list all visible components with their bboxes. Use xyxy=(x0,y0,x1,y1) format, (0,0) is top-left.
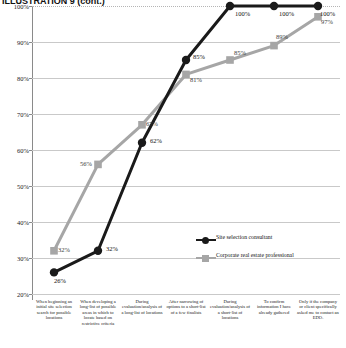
data-point-marker xyxy=(138,139,146,147)
y-axis-tick-mark xyxy=(29,222,32,223)
x-axis-category-labels: When beginning an initial site selection… xyxy=(32,297,340,348)
data-point-label: 100% xyxy=(320,10,335,17)
series-line xyxy=(54,17,318,251)
gridline xyxy=(32,294,340,295)
data-point-label: 56% xyxy=(80,160,92,167)
x-axis-category-label: During evaluation/analysis of a long-lis… xyxy=(120,297,164,348)
data-point-marker xyxy=(226,2,234,10)
y-axis-tick-label: 30% xyxy=(0,255,29,262)
y-axis-tick-label: 40% xyxy=(0,219,29,226)
legend-label: Corporate real estate professional xyxy=(216,252,294,259)
legend-marker-swatch xyxy=(202,255,209,262)
data-point-marker xyxy=(50,247,58,255)
chart-legend: Site selection consultantCorporate real … xyxy=(196,234,342,270)
x-axis-category-label: When developing a long-list of possible … xyxy=(76,297,120,348)
x-axis-category-label: After narrowing of options to a short-li… xyxy=(164,297,208,348)
chart-container: ILLUSTRATION 9 (cont.) 26%32%62%85%100%1… xyxy=(0,0,346,348)
data-point-label: 89% xyxy=(276,33,288,40)
y-axis-tick-label: 80% xyxy=(0,75,29,82)
data-point-marker xyxy=(226,56,234,64)
y-axis-tick-mark xyxy=(29,294,32,295)
data-point-marker xyxy=(270,2,278,10)
data-point-label: 62% xyxy=(150,137,162,144)
data-point-marker xyxy=(94,247,102,255)
data-point-label: 97% xyxy=(321,18,333,25)
data-point-marker xyxy=(94,161,102,169)
y-axis-tick-label: 70% xyxy=(0,111,29,118)
data-point-marker xyxy=(138,121,146,129)
legend-square-marker-icon xyxy=(196,253,216,263)
data-point-label: 32% xyxy=(106,245,118,252)
legend-item[interactable]: Corporate real estate professional xyxy=(196,252,342,263)
y-axis-tick-mark xyxy=(29,186,32,187)
x-axis-category-label: When beginning an initial site selection… xyxy=(32,297,76,348)
data-point-label: 85% xyxy=(234,49,246,56)
data-point-label: 32% xyxy=(58,246,70,253)
y-axis-tick-label: 50% xyxy=(0,183,29,190)
legend-marker-swatch xyxy=(202,237,209,244)
y-axis-tick-mark xyxy=(29,6,32,7)
data-point-marker xyxy=(182,56,190,64)
y-axis-tick-mark xyxy=(29,258,32,259)
data-point-label: 85% xyxy=(193,53,205,60)
x-axis-category-label: Only if the company or client specifical… xyxy=(296,297,340,348)
data-point-marker xyxy=(50,268,58,276)
data-point-label: 26% xyxy=(54,277,66,284)
y-axis-tick-mark xyxy=(29,42,32,43)
y-axis-tick-label: 100% xyxy=(0,3,29,10)
x-axis-category-label: To confirm information I have already ga… xyxy=(252,297,296,348)
y-axis-tick-mark xyxy=(29,150,32,151)
y-axis-tick-mark xyxy=(29,114,32,115)
data-point-marker xyxy=(182,71,190,79)
y-axis-tick-label: 60% xyxy=(0,147,29,154)
legend-label: Site selection consultant xyxy=(216,234,272,241)
data-point-marker xyxy=(270,42,278,50)
data-point-label: 100% xyxy=(235,10,250,17)
data-point-label: 81% xyxy=(190,76,202,83)
y-axis-tick-label: 20% xyxy=(0,291,29,298)
legend-item[interactable]: Site selection consultant xyxy=(196,234,342,245)
data-point-label: 67% xyxy=(146,120,158,127)
y-axis-tick-label: 90% xyxy=(0,39,29,46)
legend-circle-marker-icon xyxy=(196,235,216,245)
series-line xyxy=(54,6,318,272)
x-axis-category-label: During evaluation/analysis of a short-li… xyxy=(208,297,252,348)
y-axis-tick-mark xyxy=(29,78,32,79)
data-point-label: 100% xyxy=(279,10,294,17)
